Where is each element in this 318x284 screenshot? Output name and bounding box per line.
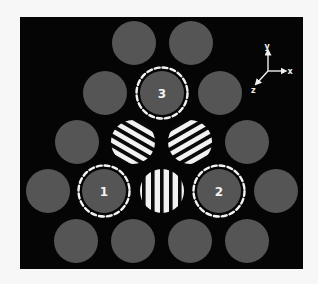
striped-element-vertical: [140, 169, 184, 213]
element-label: 1: [100, 185, 108, 199]
marked-element-3: 3: [137, 68, 188, 119]
hexagonal-array-diagram: 123 y x z: [0, 0, 318, 284]
marked-element-2: 2: [194, 166, 245, 217]
gray-element: [198, 71, 242, 115]
striped-element-left-diagonal: [111, 120, 155, 164]
element-label: 3: [158, 87, 166, 101]
gray-element: [254, 169, 298, 213]
marked-element-1: 1: [79, 166, 130, 217]
gray-element: [225, 219, 269, 263]
x-axis-label: x: [288, 67, 294, 76]
gray-element: [168, 219, 212, 263]
striped-element-right-diagonal: [168, 120, 212, 164]
element-label: 2: [215, 185, 223, 199]
y-axis-label: y: [265, 42, 271, 51]
gray-element: [112, 21, 156, 65]
gray-element: [111, 219, 155, 263]
gray-element: [83, 71, 127, 115]
gray-element: [55, 120, 99, 164]
z-axis-label: z: [251, 86, 256, 95]
gray-element: [26, 169, 70, 213]
gray-element: [54, 219, 98, 263]
gray-element: [169, 21, 213, 65]
figure: 123 y x z: [0, 0, 318, 284]
gray-element: [225, 120, 269, 164]
